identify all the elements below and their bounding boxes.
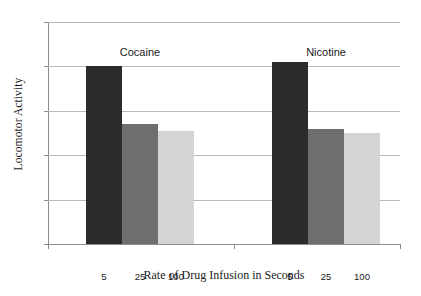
y-tick-mark-100 xyxy=(44,22,48,23)
x-axis-title: Rate of Drug Infusion in Seconds xyxy=(48,268,400,283)
bar-nicotine-5 xyxy=(272,62,308,244)
y-tick-mark-80 xyxy=(44,66,48,67)
bar-chart-figure: Locomotor Activity 020406080100Cocaine52… xyxy=(0,0,421,296)
group-heading-nicotine: Nicotine xyxy=(272,46,380,58)
bar-cocaine-100 xyxy=(158,131,194,244)
y-axis-title: Locomotor Activity xyxy=(6,0,30,248)
group-heading-cocaine: Cocaine xyxy=(86,46,194,58)
y-tick-mark-20 xyxy=(44,200,48,201)
bar-nicotine-100 xyxy=(344,133,380,244)
y-axis-title-text: Locomotor Activity xyxy=(12,78,24,171)
x-tick-mark-0 xyxy=(48,244,49,249)
y-tick-mark-60 xyxy=(44,111,48,112)
bar-cocaine-25 xyxy=(122,124,158,244)
gridline-100 xyxy=(48,22,400,23)
y-tick-mark-40 xyxy=(44,155,48,156)
plot-area: 020406080100Cocaine525100Nicotine525100 xyxy=(48,22,400,244)
bar-nicotine-25 xyxy=(308,129,344,244)
x-tick-mark-2 xyxy=(400,244,401,249)
x-tick-mark-1 xyxy=(234,244,235,249)
bar-cocaine-5 xyxy=(86,66,122,244)
gridline-0 xyxy=(48,244,400,245)
